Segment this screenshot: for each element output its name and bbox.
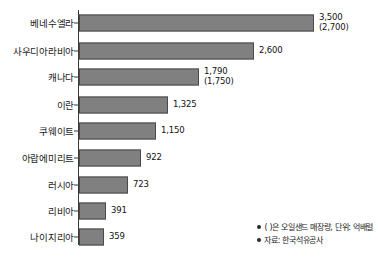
bar-value: 723 <box>133 180 149 190</box>
bar <box>79 203 106 220</box>
bar-value-primary: 1,150 <box>161 126 184 136</box>
legend-item: ( )은 오일샌드 매장량, 단위: 억배럴 <box>257 221 373 232</box>
bar <box>79 229 104 246</box>
bar-value: 1,790 (1,750) <box>204 67 234 86</box>
legend-note-source: 자료: 한국석유공사 <box>264 234 322 245</box>
bar-value: 922 <box>146 153 162 163</box>
bar-row: 베네수엘라 3,500 (2,700) <box>0 10 378 36</box>
bar <box>79 97 168 114</box>
category-label: 러시아 <box>48 178 74 192</box>
bar-row: 이란 1,325 <box>0 92 378 118</box>
bar-value-primary: 359 <box>109 232 125 242</box>
legend-item: 자료: 한국석유공사 <box>257 234 373 245</box>
bar-value-secondary: (2,700) <box>319 23 349 33</box>
bar-value: 1,325 <box>173 100 196 110</box>
bar-value-primary: 1,325 <box>173 100 196 110</box>
bar-row: 사우디아라비아 2,600 <box>0 38 378 64</box>
legend-note-unit: ( )은 오일샌드 매장량, 단위: 억배럴 <box>264 221 373 232</box>
bar-value: 359 <box>109 232 125 242</box>
bar-value: 3,500 (2,700) <box>319 13 349 32</box>
bar-value-secondary: (1,750) <box>204 77 234 87</box>
bar-value: 2,600 <box>259 46 282 56</box>
bar-row: 러시아 723 <box>0 172 378 198</box>
bar <box>79 123 156 140</box>
bar <box>79 43 254 60</box>
bar <box>79 150 141 167</box>
bar-chart: 베네수엘라 3,500 (2,700) 사우디아라비아 2,600 캐나다 1,… <box>0 0 378 261</box>
category-label: 아랍에미리트 <box>22 151 74 165</box>
chart-legend: ( )은 오일샌드 매장량, 단위: 억배럴 자료: 한국석유공사 <box>257 221 373 247</box>
bar-value-primary: 723 <box>133 180 149 190</box>
category-label: 쿠웨이트 <box>39 124 74 138</box>
category-label: 리비아 <box>48 204 74 218</box>
bar <box>79 69 199 86</box>
bullet-icon <box>257 225 261 229</box>
category-label: 베네수엘라 <box>30 16 74 30</box>
category-label: 나이지리아 <box>30 230 74 244</box>
bar-value-primary: 2,600 <box>259 46 282 56</box>
bar-row: 쿠웨이트 1,150 <box>0 118 378 144</box>
category-label: 사우디아라비아 <box>13 44 74 58</box>
bar <box>79 177 128 194</box>
category-label: 이란 <box>57 98 74 112</box>
bullet-icon <box>257 238 261 242</box>
bar-value: 1,150 <box>161 126 184 136</box>
bar <box>79 15 314 32</box>
bar-row: 캐나다 1,790 (1,750) <box>0 64 378 90</box>
bar-value-primary: 922 <box>146 153 162 163</box>
bar-value-primary: 391 <box>111 206 127 216</box>
category-label: 캐나다 <box>48 70 74 84</box>
bar-value: 391 <box>111 206 127 216</box>
bar-row: 아랍에미리트 922 <box>0 145 378 171</box>
